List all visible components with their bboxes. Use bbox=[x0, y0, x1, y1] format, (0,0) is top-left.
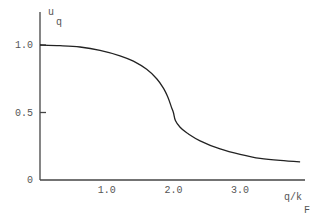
chart: 00.51.0 1.02.03.0 u q q/k F bbox=[0, 0, 323, 222]
x-tick-label: 1.0 bbox=[98, 185, 116, 196]
y-axis-label: u bbox=[48, 7, 54, 18]
y-tick-label: 0 bbox=[27, 175, 33, 186]
series-group bbox=[40, 45, 300, 162]
y-tick-labels: 00.51.0 bbox=[15, 40, 46, 186]
x-axis-label-subscript: F bbox=[304, 205, 310, 216]
x-tick-label: 2.0 bbox=[164, 185, 182, 196]
y-tick-label: 0.5 bbox=[15, 108, 33, 119]
series-line-u-q bbox=[40, 45, 300, 162]
x-axis-label: q/k bbox=[284, 192, 302, 203]
x-tick-labels: 1.02.03.0 bbox=[98, 185, 249, 196]
x-tick-label: 3.0 bbox=[231, 185, 249, 196]
y-tick-label: 1.0 bbox=[15, 40, 33, 51]
y-axis-label-subscript: q bbox=[56, 17, 62, 28]
